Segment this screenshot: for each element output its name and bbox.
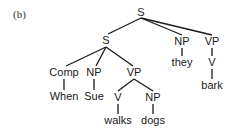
tree-node-w-when: When: [50, 91, 79, 102]
tree-node-w-they: they: [172, 57, 193, 68]
tree-node-w-sue: Sue: [84, 91, 104, 102]
tree-node-w-bark: bark: [201, 80, 222, 91]
syntax-tree-diagram: (b) SSNPVPCompNPVPWhenSueVNPwalksdogsthe…: [0, 0, 234, 131]
tree-node-comp: Comp: [49, 67, 78, 78]
tree-edge: [106, 47, 133, 66]
tree-edge: [118, 79, 134, 91]
tree-node-s-root: S: [137, 7, 144, 18]
tree-node-np-they: NP: [174, 36, 189, 47]
tree-node-vp-bark: VP: [205, 36, 220, 47]
tree-edges: [0, 0, 234, 131]
tree-node-w-walks: walks: [104, 115, 132, 126]
tree-edge: [134, 79, 153, 91]
tree-node-np-dogs: NP: [145, 92, 160, 103]
tree-node-v-bark: V: [208, 57, 215, 68]
tree-node-w-dogs: dogs: [141, 115, 165, 126]
tree-edge: [108, 18, 141, 34]
tree-node-s-sub: S: [102, 35, 109, 46]
tree-node-v-walks: V: [114, 92, 121, 103]
tree-node-vp-walks: VP: [127, 67, 142, 78]
tree-edge: [66, 47, 106, 66]
tree-node-np-sue: NP: [86, 67, 101, 78]
